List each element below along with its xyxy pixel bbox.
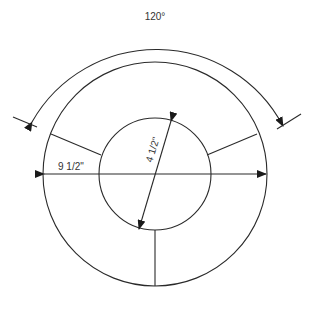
angle-label: 120° (145, 11, 166, 22)
divider-upper-left (51, 134, 101, 155)
inner-diameter-label: 4 1/2" (143, 135, 161, 163)
ring-diagram: 120° 9 1/2" 4 1/2" (0, 0, 320, 309)
angle-dimension-arc (32, 50, 283, 126)
outer-diameter-label: 9 1/2" (58, 161, 84, 172)
angle-tick-left (13, 117, 37, 127)
divider-upper-right (207, 134, 257, 155)
